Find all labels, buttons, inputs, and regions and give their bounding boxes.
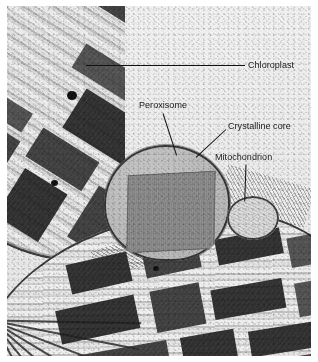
plastoglobule-1: [67, 91, 77, 100]
label-crystalline-core: Crystalline core: [228, 121, 291, 131]
crystalline-core-structure: [126, 171, 215, 254]
peroxisome-structure: [104, 145, 230, 261]
label-chloroplast: Chloroplast: [248, 60, 294, 70]
matte-bottom: [0, 356, 318, 362]
plastoglobule-3: [153, 266, 159, 271]
micrograph-figure: Chloroplast Peroxisome Crystalline core …: [0, 0, 318, 362]
matte-right: [311, 0, 318, 362]
matte-left: [0, 0, 7, 362]
matte-top: [0, 0, 318, 6]
label-peroxisome: Peroxisome: [139, 100, 187, 110]
plastoglobule-2: [51, 180, 58, 186]
leader-line-chloroplast: [86, 65, 245, 66]
micrograph-plate: [7, 6, 311, 356]
mitochondrion-structure: [227, 196, 279, 240]
label-mitochondrion: Mitochondrion: [215, 152, 272, 162]
